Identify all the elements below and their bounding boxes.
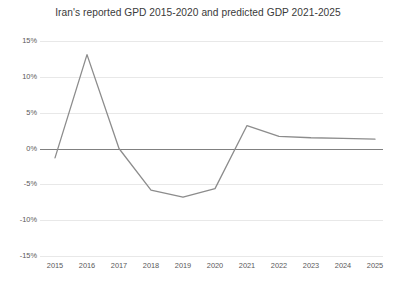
y-axis-tick-label: 10% xyxy=(1,73,37,80)
series-line-gdp-growth xyxy=(40,41,383,256)
y-axis: 15%10%5%0%-5%-10%-15% xyxy=(0,41,37,256)
plot-area xyxy=(40,41,383,256)
y-axis-tick-label: -10% xyxy=(1,216,37,223)
chart-title: Iran's reported GPD 2015-2020 and predic… xyxy=(0,7,396,18)
y-axis-tick-label: -15% xyxy=(1,252,37,259)
chart-container: Iran's reported GPD 2015-2020 and predic… xyxy=(0,0,396,285)
x-axis: 2015201620172018201920202021202220232024… xyxy=(40,262,383,278)
x-axis-tick-label: 2025 xyxy=(355,262,395,269)
y-axis-tick-label: 15% xyxy=(1,37,37,44)
y-axis-tick-label: 5% xyxy=(1,109,37,116)
y-axis-tick-label: -5% xyxy=(1,181,37,188)
gridline xyxy=(40,256,383,257)
y-axis-tick-label: 0% xyxy=(1,145,37,152)
